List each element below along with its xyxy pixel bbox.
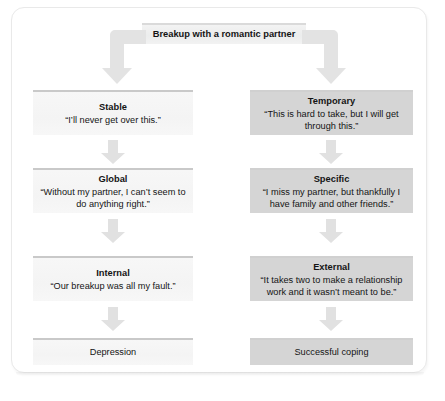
flowchart-figure: Breakup with a romantic partner Stable “…	[0, 0, 445, 401]
node-root-label: Breakup with a romantic partner	[153, 28, 296, 40]
node-right-outcome-label: Successful coping	[294, 346, 368, 358]
node-right-temporary-title: Temporary	[308, 95, 355, 107]
node-left-global-title: Global	[99, 173, 128, 185]
node-right-specific[interactable]: Specific “I miss my partner, but thankfu…	[250, 168, 413, 213]
node-left-internal[interactable]: Internal “Our breakup was all my fault.”	[33, 256, 193, 301]
figure-frame-shadow	[16, 372, 424, 376]
node-right-external-title: External	[313, 261, 350, 273]
node-left-internal-title: Internal	[96, 267, 130, 279]
node-right-external-quote: “It takes two to make a relationship wor…	[254, 274, 409, 298]
node-left-stable-quote: “I’ll never get over this.”	[65, 114, 160, 126]
node-left-outcome[interactable]: Depression	[33, 338, 193, 365]
node-right-outcome[interactable]: Successful coping	[250, 338, 413, 365]
node-left-internal-quote: “Our breakup was all my fault.”	[50, 280, 175, 292]
node-left-stable[interactable]: Stable “I’ll never get over this.”	[33, 90, 193, 135]
node-left-global[interactable]: Global “Without my partner, I can’t seem…	[33, 168, 193, 213]
node-right-temporary-quote: “This is hard to take, but I will get th…	[254, 108, 409, 132]
node-right-specific-quote: “I miss my partner, but thankfully I hav…	[254, 186, 409, 210]
node-right-temporary[interactable]: Temporary “This is hard to take, but I w…	[250, 90, 413, 135]
node-root[interactable]: Breakup with a romantic partner	[142, 23, 306, 44]
node-left-global-quote: “Without my partner, I can’t seem to do …	[37, 186, 189, 210]
node-right-external[interactable]: External “It takes two to make a relatio…	[250, 256, 413, 301]
node-left-outcome-label: Depression	[90, 346, 136, 358]
node-left-stable-title: Stable	[99, 101, 127, 113]
node-right-specific-title: Specific	[314, 173, 350, 185]
